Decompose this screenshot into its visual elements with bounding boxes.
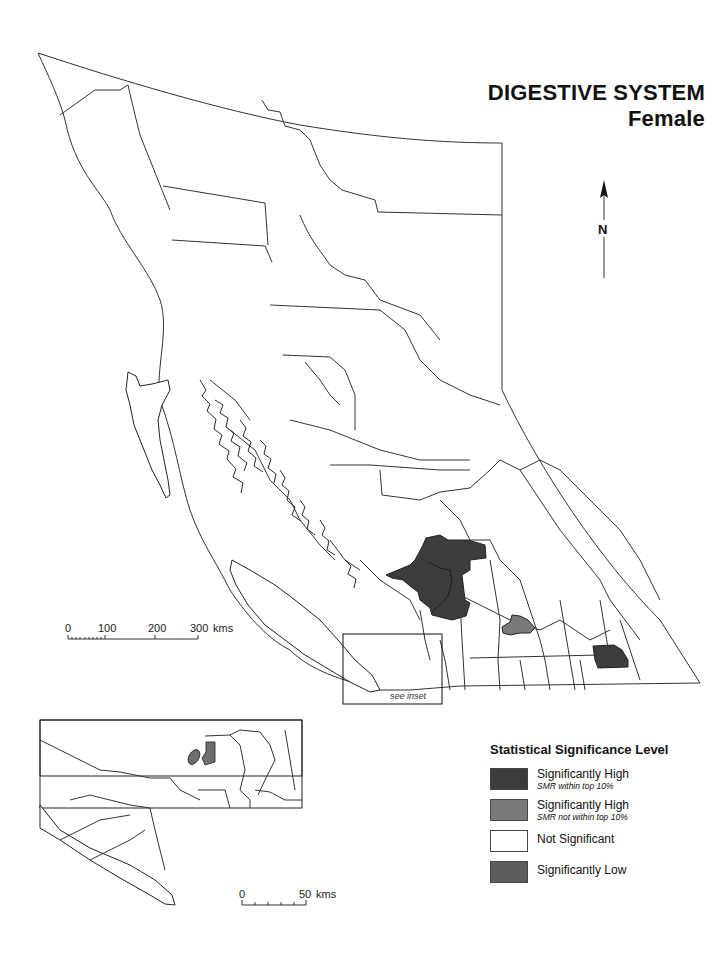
main-scale-tick-0: 0	[65, 622, 71, 634]
legend-note: SMR within top 10%	[537, 781, 629, 792]
legend-label: Not Significant	[537, 832, 614, 846]
legend-item-low: Significantly Low	[490, 860, 720, 891]
north-label: N	[598, 222, 607, 237]
legend-swatch-not-significant	[490, 830, 528, 852]
legend-label: Significantly High	[537, 798, 629, 812]
main-scale-tick-100: 100	[98, 622, 116, 634]
inset-map	[40, 720, 302, 905]
inset-vancouver-island	[40, 805, 175, 905]
legend-swatch-low	[490, 861, 528, 883]
legend-item-high-not-top10: Significantly High SMR not within top 10…	[490, 798, 720, 829]
main-scale-tick-200: 200	[148, 622, 166, 634]
inset-scale-tick-50: 50	[299, 888, 311, 900]
legend-swatch-high-top10	[490, 768, 528, 790]
main-scale-bar	[68, 635, 198, 639]
inset-scale-unit: kms	[316, 888, 336, 900]
legend-swatch-high-not-top10	[490, 799, 528, 821]
see-inset-label: see inset	[390, 691, 426, 701]
legend-note: SMR not within top 10%	[537, 812, 629, 823]
legend: Statistical Significance Level Significa…	[490, 742, 720, 891]
legend-item-high-top10: Significantly High SMR within top 10%	[490, 767, 720, 798]
province-outline	[38, 53, 700, 690]
inset-shaded-island	[186, 748, 203, 767]
legend-label: Significantly High	[537, 767, 629, 781]
inset-shaded-district	[202, 742, 215, 765]
haida-gwaii-island	[126, 372, 170, 498]
legend-title: Statistical Significance Level	[490, 742, 720, 757]
legend-label: Significantly Low	[537, 863, 626, 877]
main-scale-tick-300: 300	[190, 622, 208, 634]
inset-scale-tick-0: 0	[239, 888, 245, 900]
inset-frame-top	[40, 720, 302, 776]
inset-scale-bar	[242, 900, 306, 905]
main-scale-unit: kms	[213, 622, 233, 634]
legend-item-not-significant: Not Significant	[490, 829, 720, 860]
